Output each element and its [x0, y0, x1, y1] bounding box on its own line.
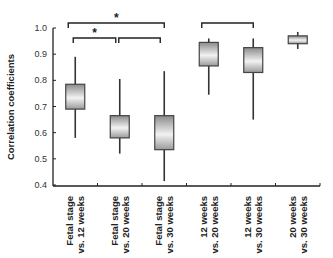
significance-brackets: **: [68, 11, 253, 43]
boxes: [66, 32, 308, 181]
y-tick-label: 0.6: [34, 128, 47, 138]
svg-text:Fetal stage: Fetal stage: [109, 196, 120, 246]
x-category-label: 12 weeksvs. 30 weeks: [242, 196, 264, 254]
x-category-label: Fetal stagevs. 12 weeks: [64, 196, 86, 254]
svg-text:vs. 30 weeks: vs. 30 weeks: [253, 196, 264, 254]
y-tick-label: 0.4: [34, 180, 47, 190]
axes: [53, 28, 320, 186]
box-iqr: [155, 116, 174, 150]
box-6: [288, 32, 307, 49]
svg-text:12 weeks: 12 weeks: [242, 196, 253, 238]
svg-text:12 weeks: 12 weeks: [198, 196, 209, 238]
significance-bracket: [119, 38, 161, 43]
box-4: [199, 38, 218, 94]
x-category-label: Fetal stagevs. 30 weeks: [153, 196, 175, 254]
x-category-label: 12 weeksvs. 20 weeks: [198, 196, 220, 254]
svg-text:vs. 12 weeks: vs. 12 weeks: [75, 196, 86, 254]
box-5: [244, 38, 263, 119]
significance-bracket: *: [68, 11, 164, 28]
chart-canvas: 0.40.50.60.70.80.91.0 ** Fetal stagevs. …: [0, 0, 333, 258]
svg-text:vs. 20 weeks: vs. 20 weeks: [120, 196, 131, 254]
y-tick-label: 0.7: [34, 102, 47, 112]
svg-text:vs. 20 weeks: vs. 20 weeks: [209, 196, 220, 254]
box-iqr: [244, 48, 263, 73]
boxplot-chart: 0.40.50.60.70.80.91.0 ** Fetal stagevs. …: [0, 0, 333, 258]
significance-bracket: [202, 23, 254, 28]
svg-text:Fetal stage: Fetal stage: [64, 196, 75, 246]
y-tick-label: 0.5: [34, 154, 47, 164]
box-2: [110, 79, 129, 154]
box-iqr: [66, 84, 85, 109]
significance-marker: *: [92, 26, 97, 40]
x-axis-labels: Fetal stagevs. 12 weeksFetal stagevs. 20…: [64, 196, 309, 254]
svg-text:Fetal stage: Fetal stage: [153, 196, 164, 246]
y-tick-label: 0.8: [34, 75, 47, 85]
box-1: [66, 57, 85, 138]
x-category-label: Fetal stagevs. 20 weeks: [109, 196, 131, 254]
box-iqr: [110, 116, 129, 138]
y-tick-label: 1.0: [34, 23, 47, 33]
significance-marker: *: [114, 11, 119, 25]
box-3: [155, 71, 174, 181]
x-category-label: 20 weeksvs. 30 weeks: [287, 196, 309, 254]
y-tick-label: 0.9: [34, 49, 47, 59]
svg-text:vs. 30 weeks: vs. 30 weeks: [164, 196, 175, 254]
svg-text:vs. 30 weeks: vs. 30 weeks: [298, 196, 309, 254]
box-iqr: [288, 36, 307, 44]
box-iqr: [199, 42, 218, 66]
y-axis-label: Correlation coefficients: [5, 54, 16, 160]
svg-text:20 weeks: 20 weeks: [287, 196, 298, 238]
significance-bracket: *: [73, 26, 116, 43]
